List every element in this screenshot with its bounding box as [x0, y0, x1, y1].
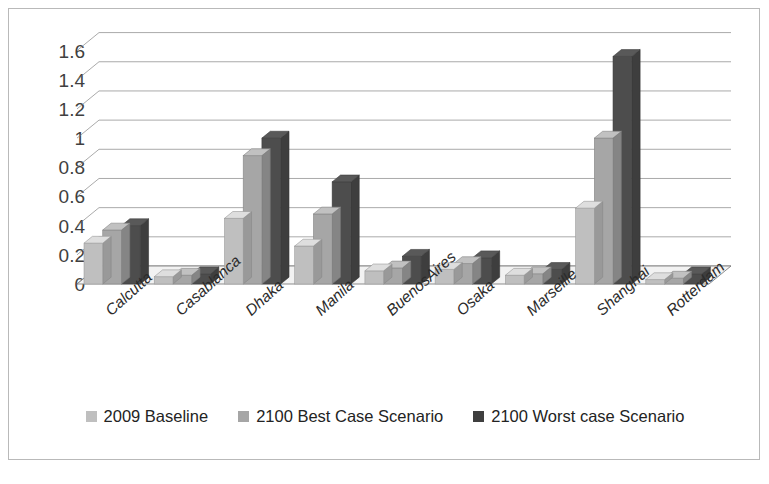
legend-item-2[interactable]: 2100 Worst case Scenario	[473, 407, 684, 426]
gridline	[77, 33, 731, 51]
bar-manila-s0	[295, 239, 322, 284]
legend-label: 2100 Best Case Scenario	[256, 407, 443, 426]
plot-area: 1.61.41.210.80.60.40.20 CalcuttaCasablan…	[9, 9, 761, 461]
legend-item-0[interactable]: 2009 Baseline	[86, 407, 209, 426]
legend-swatch-icon	[86, 411, 97, 422]
legend-label: 2100 Worst case Scenario	[491, 407, 684, 426]
legend-swatch-icon	[238, 411, 249, 422]
bar-front-face	[365, 271, 384, 284]
bar-front-face	[646, 280, 665, 284]
bar-dhaka-s0	[224, 212, 251, 284]
bar-side-face	[262, 149, 270, 284]
bar-shanghai-s0	[576, 201, 603, 284]
bar-side-face	[594, 201, 602, 284]
bar-front-face	[84, 243, 103, 284]
bar-side-face	[281, 131, 289, 284]
bar-front-face	[435, 269, 454, 284]
bar-side-face	[243, 212, 251, 284]
bar-side-face	[313, 239, 321, 284]
bar-side-face	[140, 219, 148, 284]
chart-frame: 1.61.41.210.80.60.40.20 CalcuttaCasablan…	[8, 8, 760, 460]
bar-calcutta-s0	[84, 236, 111, 284]
bar-front-face	[505, 275, 524, 284]
bars-group	[84, 50, 710, 284]
chart-legend: 2009 Baseline2100 Best Case Scenario2100…	[9, 407, 761, 426]
chart-canvas	[9, 9, 761, 461]
bar-side-face	[103, 236, 111, 284]
bar-front-face	[224, 218, 243, 284]
bar-side-face	[632, 50, 640, 284]
bar-front-face	[576, 208, 595, 284]
bar-front-face	[295, 246, 314, 284]
legend-item-1[interactable]: 2100 Best Case Scenario	[238, 407, 443, 426]
legend-swatch-icon	[473, 411, 484, 422]
bar-side-face	[351, 175, 359, 284]
bar-osaka-s0	[435, 263, 462, 284]
bar-front-face	[154, 277, 173, 284]
bar-side-face	[613, 131, 621, 284]
bar-side-face	[121, 223, 129, 284]
bar-side-face	[332, 207, 340, 284]
legend-label: 2009 Baseline	[104, 407, 209, 426]
